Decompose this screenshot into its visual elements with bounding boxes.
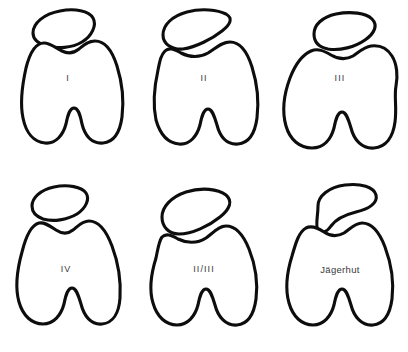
femoral-condyle-outline-type-2 <box>154 42 258 144</box>
panel-type-3: III <box>272 0 408 176</box>
femoral-condyle-outline-type-3 <box>284 46 397 148</box>
panel-type-4: IV <box>0 176 136 352</box>
panel-type-2: II <box>136 0 272 176</box>
panel-jaegerhut: Jägerhut <box>272 176 408 352</box>
panel-type-2-3: II/III <box>136 176 272 352</box>
panel-label-type-2-3: II/III <box>193 264 215 274</box>
patella-outline-type-3 <box>314 13 375 50</box>
femoral-condyle-outline-type-1 <box>22 41 123 143</box>
patella-outline-type-4 <box>32 186 88 221</box>
panel-label-type-4: IV <box>61 264 72 274</box>
panel-label-jaegerhut: Jägerhut <box>320 264 359 275</box>
panel-label-type-3: III <box>335 73 346 83</box>
femoral-condyle-outline-type-2-3 <box>151 226 257 325</box>
panel-type-1: I <box>0 0 136 176</box>
patella-classification-figure: I II III IV II/III <box>0 0 408 352</box>
panel-label-type-1: I <box>66 73 70 83</box>
panel-label-type-2: II <box>200 73 207 83</box>
